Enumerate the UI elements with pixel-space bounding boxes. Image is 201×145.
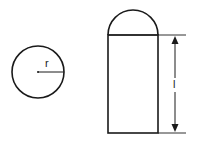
center-dot (37, 71, 39, 73)
radius-label: r (45, 58, 49, 69)
cylinder-rect (108, 35, 158, 133)
arrow-up-icon (172, 36, 179, 44)
arrow-down-icon (172, 124, 179, 132)
dome-arc (108, 10, 158, 35)
length-label: l (173, 79, 175, 90)
diagram-canvas (0, 0, 201, 145)
